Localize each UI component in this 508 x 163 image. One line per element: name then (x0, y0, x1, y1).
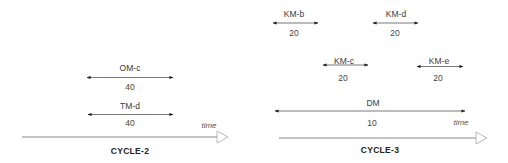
interval-label-km-b: KM-b (284, 9, 304, 19)
interval-value-dm: 10 (367, 118, 376, 128)
diagram-graphics (0, 0, 508, 163)
cycle-title: CYCLE-2 (111, 146, 149, 156)
interval-value-om-c: 40 (125, 82, 134, 92)
interval-value-tm-d: 40 (125, 118, 134, 128)
interval-label-km-e: KM-e (429, 56, 449, 66)
interval-label-km-c: KM-c (334, 56, 354, 66)
interval-value-km-b: 20 (289, 28, 298, 38)
interval-value-km-c: 20 (338, 73, 347, 83)
time-axis-arrowhead-icon (476, 132, 487, 144)
interval-label-km-d: KM-d (386, 9, 406, 19)
interval-label-tm-d: TM-d (120, 101, 140, 111)
time-axis-label: time (201, 121, 216, 130)
interval-value-km-d: 20 (390, 28, 399, 38)
interval-label-om-c: OM-c (120, 63, 141, 73)
interval-label-dm: DM (366, 98, 379, 108)
time-axis-arrowhead-icon (217, 131, 228, 143)
time-axis-label: time (453, 118, 468, 127)
interval-value-km-e: 20 (433, 73, 442, 83)
cycle-title: CYCLE-3 (361, 145, 399, 155)
cycle-timing-diagram: OM-c 40 TM-d 40 time CYCLE-2 KM-b 20 KM-… (0, 0, 508, 163)
